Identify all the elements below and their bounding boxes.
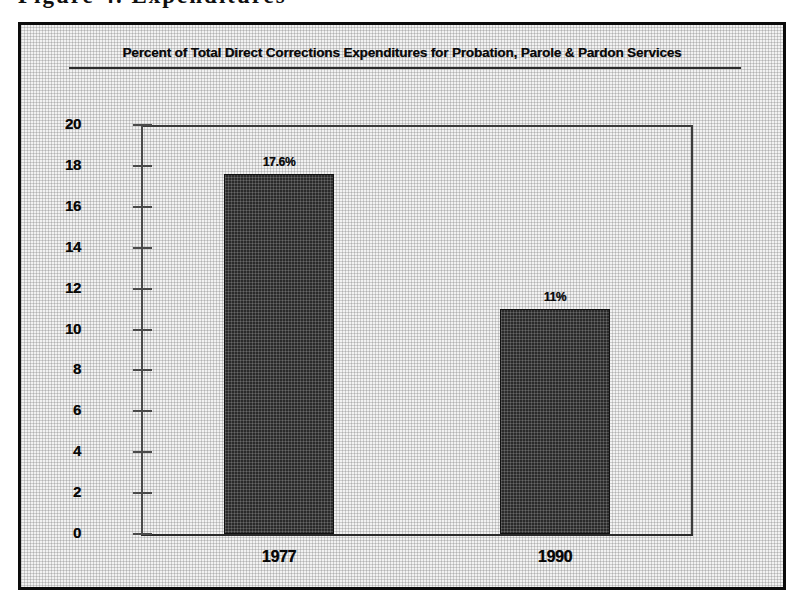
y-axis-tick-label: 18 — [41, 156, 81, 173]
y-axis-tick-label: 14 — [41, 238, 81, 255]
y-axis-tick-mark — [133, 492, 152, 494]
y-axis-tick-label: 2 — [41, 483, 81, 500]
title-underline-rule — [69, 67, 741, 69]
y-axis-tick-mark — [133, 206, 152, 208]
bar-value-label-1990: 11% — [495, 290, 615, 304]
y-axis-tick-mark — [133, 124, 152, 126]
bar-value-label-1977: 17.6% — [219, 155, 339, 169]
y-axis-tick-mark — [133, 288, 152, 290]
y-axis-tick-mark — [133, 165, 152, 167]
x-axis-category-label-1977: 1977 — [209, 548, 349, 566]
y-axis-tick-mark — [133, 410, 152, 412]
x-axis-category-label-1990: 1990 — [485, 548, 625, 566]
chart-title: Percent of Total Direct Corrections Expe… — [21, 45, 783, 60]
y-axis-tick-label: 6 — [41, 401, 81, 418]
x-axis-line — [141, 534, 693, 536]
bar-1990[interactable] — [500, 309, 610, 534]
y-axis-tick-mark — [133, 533, 152, 535]
y-axis-tick-mark — [133, 247, 152, 249]
y-axis-tick-label: 0 — [41, 524, 81, 541]
y-axis-tick-label: 10 — [41, 320, 81, 337]
y-axis-tick-label: 8 — [41, 360, 81, 377]
bar-1977[interactable] — [224, 174, 334, 534]
figure-frame: Percent of Total Direct Corrections Expe… — [18, 22, 786, 590]
page-top-cutoff-text: Figure 4. Expenditures — [18, 0, 287, 9]
y-axis-tick-label: 4 — [41, 442, 81, 459]
page-top-cutoff-artifact: Figure 4. Expenditures — [0, 0, 794, 14]
y-axis-tick-label: 20 — [41, 115, 81, 132]
y-axis-line — [141, 125, 143, 536]
y-axis-tick-mark — [133, 451, 152, 453]
y-axis-tick-mark — [133, 369, 152, 371]
y-axis-tick-label: 16 — [41, 197, 81, 214]
y-axis-tick-mark — [133, 329, 152, 331]
y-axis-tick-label: 12 — [41, 279, 81, 296]
